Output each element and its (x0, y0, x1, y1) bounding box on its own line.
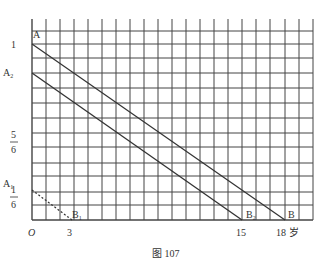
y-label-one-sixth-den: 6 (11, 199, 16, 210)
y-label-1: 1 (11, 39, 16, 50)
y-label-five-sixths-num: 5 (11, 129, 16, 140)
origin-label: O (28, 227, 35, 238)
point-label-a2: A2 (3, 67, 13, 79)
y-label-one-sixth-num: 1 (11, 184, 16, 195)
point-label-a: A (33, 29, 41, 40)
point-label-b2: B2 (246, 209, 256, 221)
point-label-b1: B1 (72, 209, 82, 221)
figure-caption: 图 107 (152, 248, 180, 259)
y-label-one-sixth: 1 6 (10, 184, 18, 210)
x-tick-18-years: 18 岁 (276, 226, 299, 238)
x-tick-3: 3 (67, 227, 72, 238)
grid (32, 19, 313, 220)
y-label-five-sixths: 5 6 (10, 129, 18, 155)
age-line-diagram: A A2 A1 B1 B2 B 1 5 6 1 6 O 3 15 18 岁 图 … (0, 0, 333, 274)
x-tick-15: 15 (236, 227, 246, 238)
y-label-five-sixths-den: 6 (11, 144, 16, 155)
point-label-b: B (288, 209, 295, 220)
